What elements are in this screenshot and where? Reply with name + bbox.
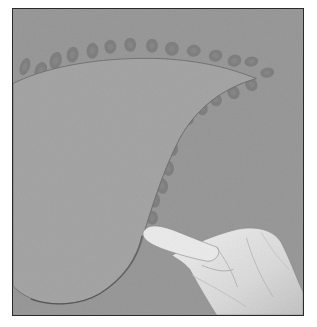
photo-frame xyxy=(12,8,304,316)
stencil-photo xyxy=(13,9,303,315)
